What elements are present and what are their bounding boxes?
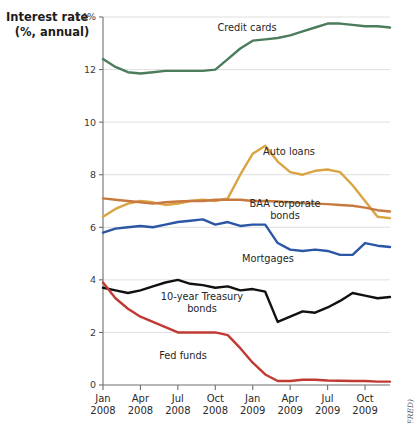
annotation-baa-corporate-bonds: BAA corporatebonds — [249, 198, 320, 221]
x-tick-label-year: 2008 — [90, 405, 115, 416]
x-tick-label-month: Oct — [356, 393, 373, 404]
x-axis-ticks: Jan2008Apr2008Jul2008Oct2008Jan2009Apr20… — [90, 385, 377, 416]
annotation-mortgages: Mortgages — [242, 253, 294, 264]
x-tick-label-year: 2008 — [203, 405, 228, 416]
y-tick-label: 6 — [90, 222, 96, 233]
source-note: Data from: Federal Reserve Economic Data… — [406, 399, 415, 423]
series-line-10-year-treasury-bonds — [103, 280, 390, 322]
series-line-mortgages — [103, 219, 390, 254]
x-tick-label-month: Jan — [244, 393, 260, 404]
x-tick-label-year: 2009 — [240, 405, 265, 416]
x-tick-label-year: 2009 — [352, 405, 377, 416]
x-tick-label-year: 2008 — [165, 405, 190, 416]
x-tick-label-month: Oct — [207, 393, 224, 404]
x-tick-label-year: 2009 — [315, 405, 340, 416]
y-tick-label: 14% — [75, 11, 96, 22]
y-tick-label: 2 — [90, 327, 96, 338]
annotation-auto-loans: Auto loans — [263, 146, 315, 157]
y-tick-label: 10 — [84, 117, 96, 128]
series-line-auto-loans — [103, 146, 390, 218]
x-tick-label-month: Jan — [94, 393, 110, 404]
x-tick-label-month: Apr — [282, 393, 300, 404]
x-tick-label-year: 2009 — [277, 405, 302, 416]
y-tick-label: 12 — [84, 64, 96, 75]
x-tick-label-month: Jul — [321, 393, 334, 404]
chart-page: Interest rate (%, annual) 02468101214% J… — [0, 0, 415, 423]
chart-svg: 02468101214% Jan2008Apr2008Jul2008Oct200… — [0, 0, 415, 423]
annotation-credit-cards: Credit cards — [217, 22, 276, 33]
series-annotations: Credit cardsAuto loansBAA corporatebonds… — [159, 22, 320, 361]
y-axis-ticks: 02468101214% — [75, 11, 103, 390]
x-tick-label-month: Jul — [171, 393, 184, 404]
annotation-fed-funds: Fed funds — [159, 350, 207, 361]
y-tick-label: 8 — [90, 169, 96, 180]
data-series — [103, 24, 390, 382]
gridlines — [103, 17, 390, 332]
y-tick-label: 4 — [90, 274, 96, 285]
x-tick-label-year: 2008 — [128, 405, 153, 416]
x-tick-label-month: Apr — [132, 393, 150, 404]
series-line-baa-corporate-bonds — [103, 198, 390, 211]
y-tick-label: 0 — [90, 379, 96, 390]
annotation-treasury-bonds: 10-year Treasurybonds — [161, 291, 244, 314]
